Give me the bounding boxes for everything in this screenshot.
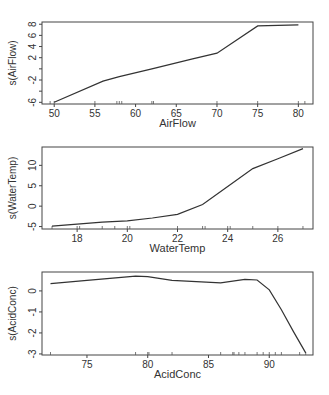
x-tick-label: 18 — [72, 233, 84, 244]
x-axis-title: AcidConc — [154, 368, 202, 380]
y-tick-label: 4 — [27, 43, 38, 49]
x-tick-label: 90 — [264, 359, 276, 370]
panel-airflow: 50556065707580-6-22468AirFlows(AirFlow) — [7, 21, 313, 129]
smooth-curve — [54, 25, 298, 103]
y-axis-title: s(AcidConc) — [7, 286, 18, 340]
y-tick-label: -2 — [27, 75, 38, 84]
y-tick-label: -2 — [27, 328, 38, 337]
plot-frame — [42, 272, 313, 355]
x-tick-label: 85 — [203, 359, 215, 370]
y-tick-label: 10 — [27, 159, 38, 171]
y-tick-label: 6 — [27, 32, 38, 38]
y-tick-label: 0 — [27, 288, 38, 294]
y-tick-label: -6 — [27, 97, 38, 106]
panel-watertemp: 1820222426-50510WaterTemps(WaterTemp) — [7, 147, 313, 254]
y-tick-label: -1 — [27, 307, 38, 316]
gam-partial-effects-figure: 50556065707580-6-22468AirFlows(AirFlow)1… — [0, 0, 329, 395]
y-axis-title: s(AirFlow) — [7, 41, 18, 86]
x-tick-label: 55 — [89, 108, 101, 119]
x-tick-label: 24 — [222, 233, 234, 244]
y-tick-label: 5 — [27, 183, 38, 189]
y-tick-label: -5 — [27, 222, 38, 231]
x-axis-title: AirFlow — [159, 117, 196, 129]
y-tick-label: -3 — [27, 349, 38, 358]
smooth-curve — [51, 276, 306, 353]
y-tick-label: 2 — [27, 54, 38, 60]
x-tick-label: 75 — [252, 108, 264, 119]
x-tick-label: 70 — [211, 108, 223, 119]
x-tick-label: 80 — [293, 108, 305, 119]
smooth-curve — [52, 149, 303, 227]
x-tick-label: 26 — [272, 233, 284, 244]
y-tick-label: 0 — [27, 203, 38, 209]
x-tick-label: 50 — [49, 108, 61, 119]
y-axis-title: s(WaterTemp) — [7, 157, 18, 219]
plot-frame — [42, 147, 313, 229]
x-tick-label: 20 — [122, 233, 134, 244]
panel-acidconc: 75808590-3-2-10AcidConcs(AcidConc) — [7, 272, 313, 380]
x-axis-title: WaterTemp — [150, 242, 206, 254]
x-tick-label: 60 — [130, 108, 142, 119]
x-tick-label: 80 — [142, 359, 154, 370]
x-tick-label: 75 — [81, 359, 93, 370]
y-tick-label: 8 — [27, 21, 38, 27]
